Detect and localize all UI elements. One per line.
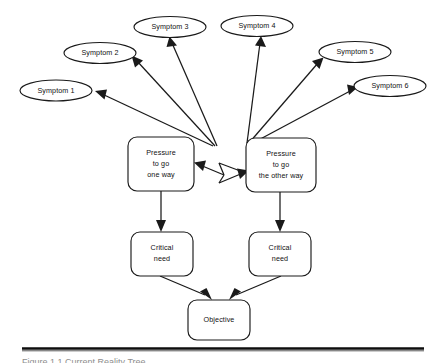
symptom-node-2[interactable]: Symptom 2 — [64, 43, 136, 64]
conflict-zigzag-arrow — [194, 161, 249, 184]
symptom-1-label: Symptom 1 — [37, 86, 74, 95]
symptom-node-5[interactable]: Symptom 5 — [319, 42, 391, 63]
edge-critical-need-left-to-objective — [160, 276, 212, 300]
pressure-left-label-line-1: Pressure — [146, 148, 176, 157]
symptom-2-label: Symptom 2 — [81, 48, 118, 57]
edge-pressure-left-to-critical-need-left — [156, 191, 166, 232]
pressure-right-label-line-3: the other way — [259, 171, 304, 180]
edge-pressure-left-to-symptom-2 — [132, 56, 216, 147]
edge-pressure-left-to-symptom-3 — [167, 37, 218, 147]
pressure-left-label-line-2: to go — [153, 159, 170, 168]
objective-node[interactable]: Objective — [188, 300, 250, 340]
symptom-4-label: Symptom 4 — [238, 21, 275, 30]
symptom-node-4[interactable]: Symptom 4 — [221, 16, 293, 37]
figure-caption: Figure 1.1 Current Reality Tree — [22, 357, 442, 363]
pressure-right-label-line-1: Pressure — [266, 149, 296, 158]
critical-need-left-label-line-1: Critical — [151, 243, 174, 252]
conflict-resolution-diagram: Symptom 1 Symptom 2 Symptom 3 Symptom 4 … — [0, 0, 442, 363]
edge-critical-need-right-to-objective — [229, 276, 281, 300]
pressure-right-label-line-2: to go — [273, 160, 290, 169]
symptom-5-label: Symptom 5 — [336, 47, 373, 56]
pressure-left-label-line-3: one way — [147, 170, 175, 179]
edge-pressure-right-to-symptom-6 — [251, 85, 358, 145]
symptom-node-3[interactable]: Symptom 3 — [134, 17, 206, 38]
pressure-left-node[interactable]: Pressure to go one way — [128, 137, 194, 191]
edge-pressure-right-to-critical-need-right — [275, 192, 285, 232]
critical-need-left-node[interactable]: Critical need — [131, 232, 193, 276]
symptom-node-6[interactable]: Symptom 6 — [354, 76, 426, 97]
diagram-page: Symptom 1 Symptom 2 Symptom 3 Symptom 4 … — [0, 0, 442, 363]
critical-need-right-node[interactable]: Critical need — [249, 232, 311, 276]
figure-caption-clip: Figure 1.1 Current Reality Tree — [0, 357, 442, 363]
symptom-6-label: Symptom 6 — [371, 81, 408, 90]
critical-need-right-label-line-1: Critical — [269, 243, 292, 252]
symptom-node-1[interactable]: Symptom 1 — [20, 80, 92, 101]
symptom-3-label: Symptom 3 — [151, 22, 188, 31]
critical-need-left-label-line-2: need — [154, 254, 170, 263]
pressure-right-node[interactable]: Pressure to go the other way — [246, 138, 316, 192]
footer-rule — [22, 349, 424, 351]
critical-need-right-label-line-2: need — [272, 254, 288, 263]
edge-pressure-right-to-symptom-5 — [249, 58, 324, 144]
objective-label: Objective — [204, 315, 235, 324]
